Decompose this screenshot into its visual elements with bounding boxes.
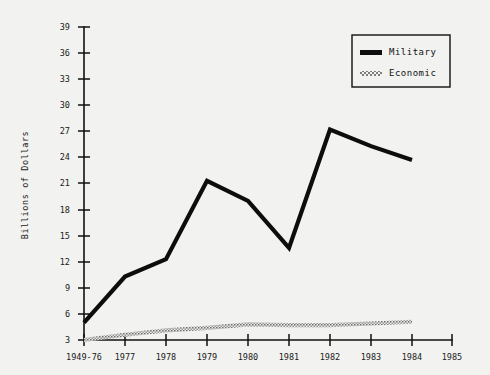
y-tick-label: 6: [65, 309, 70, 319]
legend: Military Economic: [352, 35, 450, 87]
x-tick-label: 1977: [115, 352, 135, 362]
y-tick-label: 24: [60, 152, 70, 162]
x-tick-label: 1983: [361, 352, 381, 362]
y-tick-label: 12: [60, 257, 70, 267]
y-tick-label: 27: [60, 126, 70, 136]
x-tick-label: 1979: [197, 352, 217, 362]
x-tick-label: 1985: [442, 352, 462, 362]
y-tick-label: 3: [65, 335, 70, 345]
y-tick-label: 33: [60, 74, 70, 84]
legend-label-military: Military: [389, 47, 436, 57]
legend-label-economic: Economic: [389, 68, 436, 78]
y-tick-label: 39: [60, 22, 70, 32]
x-axis-tick-labels: 1949-76 1977 1978 1979 1980 1981 1982 19…: [66, 352, 462, 362]
y-tick-label: 15: [60, 231, 70, 241]
y-tick-label: 21: [60, 178, 70, 188]
legend-swatch-economic: [360, 71, 382, 76]
x-tick-label: 1981: [279, 352, 299, 362]
y-tick-label: 18: [60, 205, 70, 215]
line-chart: Billions of Dollars 39 36 33 30: [0, 0, 490, 375]
x-tick-label: 1949-76: [66, 352, 102, 362]
y-tick-label: 30: [60, 100, 70, 110]
y-tick-label: 9: [65, 283, 70, 293]
legend-swatch-military: [360, 50, 382, 55]
y-tick-label: 36: [60, 48, 70, 58]
series-line-military: [84, 130, 412, 323]
x-tick-label: 1978: [156, 352, 176, 362]
legend-box: [352, 35, 450, 87]
x-tick-label: 1984: [402, 352, 422, 362]
x-tick-label: 1980: [238, 352, 258, 362]
chart-container: Billions of Dollars 39 36 33 30: [0, 0, 490, 375]
x-tick-label: 1982: [320, 352, 340, 362]
y-axis-title: Billions of Dollars: [20, 131, 30, 240]
y-axis-tick-labels: 39 36 33 30 27 24 21 18 15 12 9 6 3: [60, 22, 70, 345]
